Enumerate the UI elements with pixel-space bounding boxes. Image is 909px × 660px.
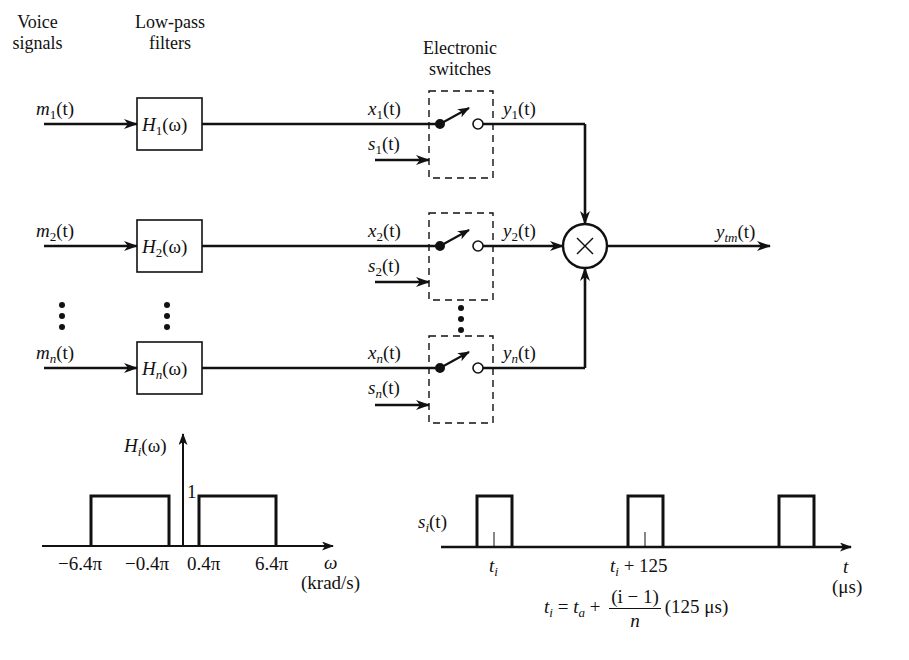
tick-pos-0.4pi: 0.4π	[187, 554, 220, 573]
pulse-3	[779, 496, 814, 547]
header-switches-line2: switches	[405, 59, 515, 80]
switch-box-n	[429, 336, 493, 423]
label-m1: m1(t)	[36, 99, 74, 121]
ellipsis-switches	[458, 305, 464, 338]
equation-fraction: (i − 1)n	[609, 587, 661, 630]
ellipsis-filters	[164, 302, 170, 335]
label-mn: mn(t)	[36, 343, 74, 365]
label-xn: xn(t)	[368, 343, 401, 365]
tick-neg-6.4pi: −6.4π	[58, 554, 102, 573]
header-filters-line1: Low-pass	[120, 12, 220, 33]
header-switches-line1: Electronic	[405, 38, 515, 59]
tick-pos-6.4pi: 6.4π	[255, 554, 288, 573]
label-yn: yn(t)	[503, 343, 536, 365]
switch-contact-n	[473, 363, 483, 373]
switch-contact-2	[473, 241, 483, 251]
header-electronic-switches: Electronic switches	[405, 38, 515, 80]
label-hn: Hn(ω)	[142, 359, 187, 381]
tick-neg-0.4pi: −0.4π	[125, 554, 169, 573]
ellipsis-inputs	[59, 302, 65, 335]
passband-negative	[91, 496, 169, 546]
timing-equation: ti = ta + (i − 1)n(125 μs)	[544, 587, 728, 630]
pulse-plot-xunit: (μs)	[832, 577, 862, 596]
label-ytm: ytm(t)	[716, 222, 755, 244]
label-m2: m2(t)	[36, 221, 74, 243]
header-filters-line2: filters	[120, 33, 220, 54]
pulse-tick-ti: ti	[489, 556, 498, 578]
filter-plot-ylabel: Hi(ω)	[124, 436, 167, 458]
label-x2: x2(t)	[368, 221, 401, 243]
label-y1: y1(t)	[503, 99, 536, 121]
label-h1: H1(ω)	[142, 115, 187, 137]
header-voice-line2: signals	[0, 33, 75, 54]
switch-box-1	[429, 91, 493, 178]
filter-plot-xlabel: ω	[324, 553, 337, 572]
pulse-plot-xlabel: t	[843, 557, 848, 576]
filter-plot-xunit: (krad/s)	[301, 573, 360, 592]
header-lowpass-filters: Low-pass filters	[120, 12, 220, 54]
pulse-tick-ti-plus-125: ti + 125	[610, 556, 668, 578]
header-voice-signals: Voice signals	[0, 12, 75, 54]
label-x1: x1(t)	[368, 99, 401, 121]
label-s2: s2(t)	[368, 256, 400, 278]
switch-contact-1	[473, 119, 483, 129]
label-s1: s1(t)	[368, 134, 400, 156]
pulse-plot-ylabel: si(t)	[418, 512, 447, 534]
passband-positive	[199, 496, 276, 546]
label-h2: H2(ω)	[142, 237, 187, 259]
filter-plot-level: 1	[187, 482, 197, 501]
label-y2: y2(t)	[503, 221, 536, 243]
header-voice-line1: Voice	[0, 12, 75, 33]
switch-box-2	[429, 213, 493, 300]
label-sn: sn(t)	[368, 378, 400, 400]
